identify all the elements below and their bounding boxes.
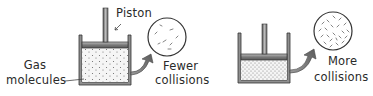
diagram-canvas: Piston Gas molecules Fewer collisions Mo… — [0, 0, 373, 96]
more-collisions-line2: collisions — [314, 70, 368, 84]
more-collisions-line1: More — [328, 54, 357, 68]
piston-label: Piston — [116, 6, 152, 20]
right-zoom-circle — [314, 12, 352, 50]
gas-label-line1: Gas — [20, 58, 50, 72]
left-zoom-arrow — [131, 54, 153, 75]
left-zoom-circle — [148, 18, 186, 56]
gas-label-line2: molecules — [6, 73, 66, 87]
right-zoom-arrow — [290, 49, 316, 73]
right-cylinder — [238, 24, 290, 83]
fewer-collisions-line1: Fewer — [163, 59, 198, 73]
fewer-collisions-line2: collisions — [155, 73, 209, 87]
